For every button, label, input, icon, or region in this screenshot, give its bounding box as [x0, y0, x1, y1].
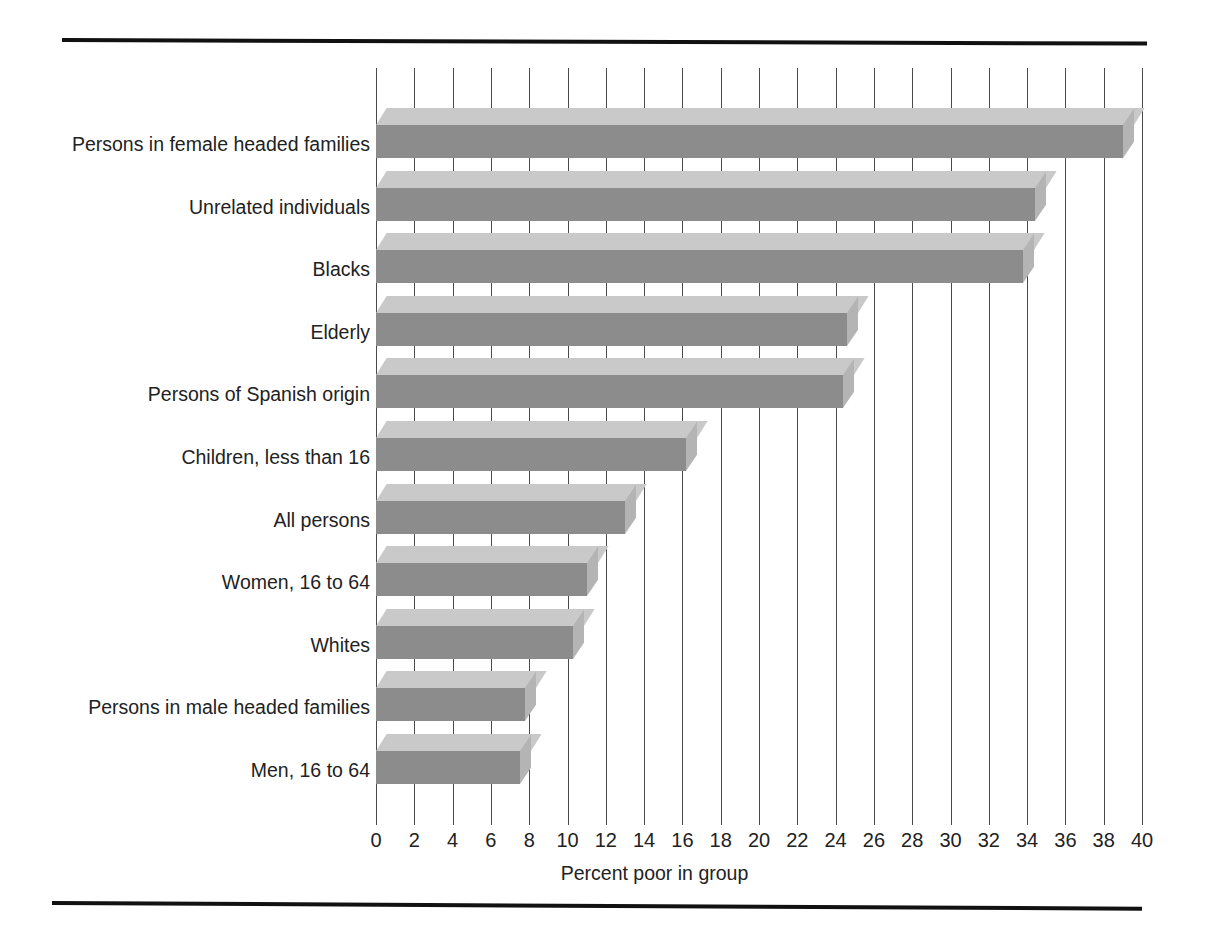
bar-front-face [376, 563, 587, 596]
bar [376, 609, 573, 659]
bar-row: All persons [0, 484, 1209, 546]
bar [376, 734, 520, 784]
bar-row: Whites [0, 609, 1209, 671]
bar-top-face [376, 296, 847, 313]
bar-category-label: Persons in female headed families [0, 135, 370, 155]
bar-top-face-surface [376, 421, 708, 438]
bar [376, 296, 847, 346]
bar-row: Women, 16 to 64 [0, 546, 1209, 608]
bar-category-label: Whites [0, 636, 370, 656]
bar-top-face [376, 358, 843, 375]
bar-front-face [376, 688, 525, 721]
bar-row: Elderly [0, 296, 1209, 358]
bar-front-face [376, 313, 847, 346]
bar-row: Persons in male headed families [0, 671, 1209, 733]
x-tick-label: 10 [548, 830, 588, 850]
x-tick-label: 40 [1122, 830, 1162, 850]
bar [376, 233, 1023, 283]
bar-top-face [376, 734, 520, 751]
x-tick-label: 28 [892, 830, 932, 850]
x-tick-label: 14 [624, 830, 664, 850]
bar-category-label: Blacks [0, 260, 370, 280]
bar-top-face [376, 233, 1023, 250]
x-axis-title: Percent poor in group [0, 862, 1209, 885]
bar [376, 108, 1123, 158]
x-tick-label: 22 [777, 830, 817, 850]
bar-top-face [376, 171, 1035, 188]
bar [376, 546, 587, 596]
bar-top-face [376, 671, 525, 688]
bar-row: Children, less than 16 [0, 421, 1209, 483]
bar-front-face [376, 250, 1023, 283]
bar-category-label: Men, 16 to 64 [0, 761, 370, 781]
bar-top-face-surface [376, 171, 1056, 188]
bar-category-label: All persons [0, 511, 370, 531]
bar [376, 484, 625, 534]
bar-top-face [376, 484, 625, 501]
x-tick-label: 2 [394, 830, 434, 850]
bar-top-face-surface [376, 546, 608, 563]
bar-front-face [376, 125, 1123, 158]
x-tick-label: 16 [662, 830, 702, 850]
x-tick-label: 12 [586, 830, 626, 850]
x-tick-label: 36 [1045, 830, 1085, 850]
bar-top-face-surface [376, 296, 869, 313]
x-tick-label: 24 [816, 830, 856, 850]
bar-front-face [376, 501, 625, 534]
x-tick-label: 32 [969, 830, 1009, 850]
x-tick-label: 26 [854, 830, 894, 850]
bar-category-label: Elderly [0, 323, 370, 343]
bar-top-face-surface [376, 484, 647, 501]
bar-category-label: Persons in male headed families [0, 698, 370, 718]
bar-front-face [376, 438, 686, 471]
bar-row: Unrelated individuals [0, 171, 1209, 233]
bar-row: Men, 16 to 64 [0, 734, 1209, 796]
bar [376, 171, 1035, 221]
x-tick-label: 18 [701, 830, 741, 850]
x-tick-label: 8 [509, 830, 549, 850]
x-tick-label: 38 [1084, 830, 1124, 850]
bar-row: Persons in female headed families [0, 108, 1209, 170]
bar-category-label: Unrelated individuals [0, 198, 370, 218]
bar-front-face [376, 751, 520, 784]
bar-top-face-surface [376, 358, 865, 375]
bar-top-face [376, 546, 587, 563]
x-tick-label: 30 [931, 830, 971, 850]
bar-top-face-surface [376, 671, 547, 688]
bar-front-face [376, 626, 573, 659]
bar-category-label: Persons of Spanish origin [0, 385, 370, 405]
x-tick-label: 34 [1007, 830, 1047, 850]
bar-front-face [376, 375, 843, 408]
bar-top-face-surface [376, 609, 595, 626]
bar-chart-plot-area: Persons in female headed familiesUnrelat… [0, 0, 1209, 929]
bar [376, 421, 686, 471]
bar-row: Persons of Spanish origin [0, 358, 1209, 420]
bar-front-face [376, 188, 1035, 221]
bar-category-label: Women, 16 to 64 [0, 573, 370, 593]
x-axis-title-text: Percent poor in group [561, 862, 749, 885]
bar-row: Blacks [0, 233, 1209, 295]
bar [376, 671, 525, 721]
bar-category-label: Children, less than 16 [0, 448, 370, 468]
x-tick-label: 0 [356, 830, 396, 850]
bar-top-face [376, 609, 573, 626]
bar-top-face-surface [376, 233, 1045, 250]
bar-top-face [376, 421, 686, 438]
x-tick-label: 4 [433, 830, 473, 850]
bar [376, 358, 843, 408]
bar-top-face-surface [376, 734, 541, 751]
bar-top-face [376, 108, 1123, 125]
x-tick-label: 6 [471, 830, 511, 850]
x-tick-label: 20 [739, 830, 779, 850]
bar-top-face-surface [376, 108, 1144, 125]
